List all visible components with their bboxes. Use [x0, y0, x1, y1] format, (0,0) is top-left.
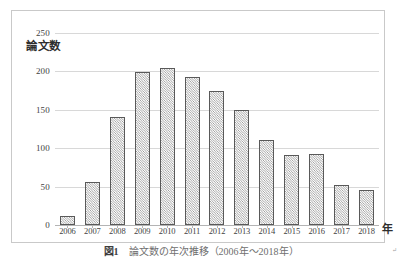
x-axis-tick-label: 2009 — [130, 227, 155, 236]
bar-2017[interactable] — [334, 185, 349, 225]
y-axis-tick-label: 150 — [36, 105, 50, 114]
x-axis-tick-label: 2012 — [205, 227, 230, 236]
bar-slot — [105, 33, 130, 225]
bar-2009[interactable] — [135, 72, 150, 225]
bar-slot — [229, 33, 254, 225]
bar-2008[interactable] — [110, 117, 125, 225]
figure-caption-text: 論文数の年次推移（2006年～2018年） — [119, 246, 299, 257]
figure-caption: 図1 論文数の年次推移（2006年～2018年） — [0, 246, 402, 258]
chart-frame: 論文数 050100150200250 20062007200820092010… — [11, 10, 385, 243]
x-axis-tick-label: 2010 — [155, 227, 180, 236]
bar-slot — [180, 33, 205, 225]
bar-slot — [55, 33, 80, 225]
bar-2018[interactable] — [359, 190, 374, 225]
y-axis-tick-label: 100 — [36, 144, 50, 153]
x-axis-tick-label: 2006 — [55, 227, 80, 236]
figure-caption-label: 図1 — [104, 246, 119, 257]
bar-2015[interactable] — [284, 155, 299, 225]
bar-slot — [304, 33, 329, 225]
x-axis-tick-label: 2015 — [279, 227, 304, 236]
y-axis-tick-label: 0 — [45, 221, 50, 230]
bar-slot — [329, 33, 354, 225]
plot-area: 050100150200250 — [55, 33, 379, 225]
bar-slot — [155, 33, 180, 225]
x-axis-tick-label: 2008 — [105, 227, 130, 236]
bar-slot — [80, 33, 105, 225]
x-axis-tick-label: 2007 — [80, 227, 105, 236]
y-axis-tick-label: 200 — [36, 67, 50, 76]
bar-2007[interactable] — [85, 182, 100, 225]
bar-slot — [205, 33, 230, 225]
x-axis-tick-label: 2013 — [229, 227, 254, 236]
bar-2012[interactable] — [209, 91, 224, 225]
x-axis-tick-label: 2014 — [254, 227, 279, 236]
bar-2006[interactable] — [60, 216, 75, 225]
bar-series — [55, 33, 379, 225]
bar-2013[interactable] — [234, 110, 249, 225]
bar-2014[interactable] — [259, 140, 274, 225]
y-axis-tick-label: 250 — [36, 29, 50, 38]
x-axis-tick-label: 2018 — [354, 227, 379, 236]
y-axis-tick-label: 50 — [41, 182, 50, 191]
bar-2010[interactable] — [160, 68, 175, 225]
bar-2016[interactable] — [309, 154, 324, 225]
bar-slot — [130, 33, 155, 225]
bar-slot — [354, 33, 379, 225]
x-axis-tick-label: 2017 — [329, 227, 354, 236]
x-axis-tick-label: 2016 — [304, 227, 329, 236]
bar-2011[interactable] — [185, 77, 200, 225]
bar-slot — [254, 33, 279, 225]
bar-slot — [279, 33, 304, 225]
x-axis-tick-labels: 2006200720082009201020112012201320142015… — [55, 227, 379, 236]
x-axis-unit-label: 年 — [382, 224, 393, 235]
x-axis-tick-label: 2011 — [180, 227, 205, 236]
